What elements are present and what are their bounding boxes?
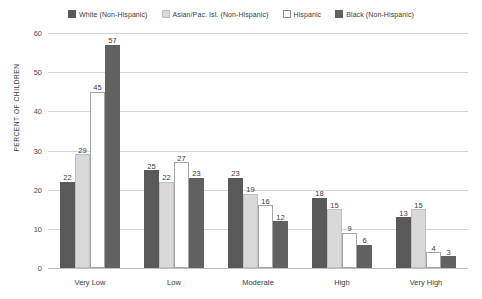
bar-slot: 22 bbox=[60, 33, 75, 268]
axis-baseline: 0 bbox=[48, 268, 468, 269]
bar-group: 23191612Moderate bbox=[216, 33, 300, 268]
legend-swatch-icon bbox=[68, 10, 76, 18]
bar-group: 22294557Very Low bbox=[48, 33, 132, 268]
bar-value-label: 23 bbox=[231, 170, 239, 178]
bar-slot: 19 bbox=[243, 33, 258, 268]
bar-slot: 27 bbox=[174, 33, 189, 268]
bar[interactable]: 23 bbox=[228, 178, 243, 268]
bar-slot: 9 bbox=[342, 33, 357, 268]
y-axis-tick-label: 0 bbox=[38, 264, 42, 273]
bar[interactable]: 57 bbox=[105, 45, 120, 268]
bar-value-label: 18 bbox=[315, 190, 323, 198]
bar-slot: 23 bbox=[189, 33, 204, 268]
bar-value-label: 3 bbox=[446, 249, 450, 257]
bar-slot: 13 bbox=[396, 33, 411, 268]
legend-item[interactable]: White (Non-Hispanic) bbox=[68, 10, 148, 18]
bar-slot: 12 bbox=[273, 33, 288, 268]
legend-swatch-icon bbox=[162, 10, 170, 18]
bar-slot: 23 bbox=[228, 33, 243, 268]
x-axis-category-label: Very Low bbox=[48, 278, 132, 287]
bar-slot: 29 bbox=[75, 33, 90, 268]
bar-slot: 15 bbox=[411, 33, 426, 268]
bar[interactable]: 9 bbox=[342, 233, 357, 268]
bar[interactable]: 27 bbox=[174, 162, 189, 268]
y-axis-tick-label: 30 bbox=[34, 146, 42, 155]
bar-slot: 4 bbox=[426, 33, 441, 268]
y-axis-tick-label: 50 bbox=[34, 68, 42, 77]
bar-slot: 22 bbox=[159, 33, 174, 268]
x-axis-category-label: High bbox=[300, 278, 384, 287]
bar[interactable]: 23 bbox=[189, 178, 204, 268]
bar-value-label: 29 bbox=[78, 147, 86, 155]
bar-slot: 25 bbox=[144, 33, 159, 268]
bar-slot: 45 bbox=[90, 33, 105, 268]
bar-group: 131543Very High bbox=[384, 33, 468, 268]
legend-swatch-icon bbox=[283, 10, 291, 18]
bar-value-label: 4 bbox=[431, 245, 435, 253]
bar[interactable]: 25 bbox=[144, 170, 159, 268]
bar-value-label: 19 bbox=[246, 186, 254, 194]
bar-value-label: 12 bbox=[276, 214, 284, 222]
bar-value-label: 6 bbox=[362, 237, 366, 245]
bar[interactable]: 15 bbox=[411, 209, 426, 268]
y-axis-title: PERCENT OF CHILDREN bbox=[13, 48, 20, 168]
bar[interactable]: 13 bbox=[396, 217, 411, 268]
bar[interactable]: 45 bbox=[90, 92, 105, 268]
x-axis-category-label: Very High bbox=[384, 278, 468, 287]
bar[interactable]: 3 bbox=[441, 256, 456, 268]
y-axis-tick-label: 10 bbox=[34, 224, 42, 233]
legend-swatch-icon bbox=[335, 10, 343, 18]
bar-group: 25222723Low bbox=[132, 33, 216, 268]
bar-groups: 22294557Very Low25222723Low23191612Moder… bbox=[48, 33, 468, 268]
bar-value-label: 45 bbox=[93, 84, 101, 92]
x-axis-category-label: Low bbox=[132, 278, 216, 287]
bar[interactable]: 22 bbox=[159, 182, 174, 268]
bar[interactable]: 19 bbox=[243, 194, 258, 268]
bar-value-label: 25 bbox=[147, 163, 155, 171]
legend-item[interactable]: Hispanic bbox=[283, 10, 322, 18]
bar[interactable]: 6 bbox=[357, 245, 372, 269]
bar-slot: 3 bbox=[441, 33, 456, 268]
bar-value-label: 57 bbox=[108, 37, 116, 45]
bar[interactable]: 29 bbox=[75, 154, 90, 268]
legend-item-label: Black (Non-Hispanic) bbox=[346, 11, 414, 18]
bar-slot: 6 bbox=[357, 33, 372, 268]
bar-value-label: 16 bbox=[261, 198, 269, 206]
bar-group: 181596High bbox=[300, 33, 384, 268]
bar[interactable]: 16 bbox=[258, 205, 273, 268]
bar-value-label: 15 bbox=[414, 202, 422, 210]
legend-item[interactable]: Asian/Pac. Isl. (Non-Hispanic) bbox=[162, 10, 269, 18]
legend-item-label: Hispanic bbox=[294, 11, 322, 18]
bar[interactable]: 22 bbox=[60, 182, 75, 268]
chart-legend: White (Non-Hispanic)Asian/Pac. Isl. (Non… bbox=[0, 10, 482, 18]
bar-value-label: 15 bbox=[330, 202, 338, 210]
legend-item-label: Asian/Pac. Isl. (Non-Hispanic) bbox=[173, 11, 269, 18]
bar-value-label: 23 bbox=[192, 170, 200, 178]
y-axis-tick-label: 20 bbox=[34, 185, 42, 194]
bar-value-label: 27 bbox=[177, 155, 185, 163]
bar-value-label: 22 bbox=[63, 174, 71, 182]
bar-value-label: 13 bbox=[399, 210, 407, 218]
bar[interactable]: 4 bbox=[426, 252, 441, 268]
bar[interactable]: 18 bbox=[312, 198, 327, 269]
bar-slot: 15 bbox=[327, 33, 342, 268]
legend-item-label: White (Non-Hispanic) bbox=[79, 11, 148, 18]
x-axis-category-label: Moderate bbox=[216, 278, 300, 287]
bar-value-label: 9 bbox=[347, 225, 351, 233]
bar[interactable]: 12 bbox=[273, 221, 288, 268]
legend-item[interactable]: Black (Non-Hispanic) bbox=[335, 10, 414, 18]
bar-slot: 16 bbox=[258, 33, 273, 268]
bar-value-label: 22 bbox=[162, 174, 170, 182]
bar-slot: 57 bbox=[105, 33, 120, 268]
bar-slot: 18 bbox=[312, 33, 327, 268]
y-axis-tick-label: 40 bbox=[34, 107, 42, 116]
plot-area: 0102030405060 22294557Very Low25222723Lo… bbox=[48, 33, 468, 268]
y-axis-tick-label: 60 bbox=[34, 29, 42, 38]
bar[interactable]: 15 bbox=[327, 209, 342, 268]
bar-chart: White (Non-Hispanic)Asian/Pac. Isl. (Non… bbox=[0, 0, 482, 299]
